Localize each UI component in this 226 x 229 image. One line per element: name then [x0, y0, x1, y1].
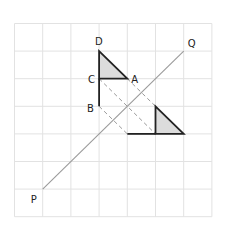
label-q: Q [188, 38, 196, 49]
original-triangle [99, 51, 127, 79]
label-d: D [95, 36, 103, 47]
image-triangle [156, 106, 184, 134]
label-c: C [88, 74, 95, 85]
label-a: A [131, 74, 138, 85]
reflection-diagram: P Q A B C D [0, 0, 226, 229]
label-p: P [31, 194, 37, 205]
label-b: B [87, 103, 94, 114]
